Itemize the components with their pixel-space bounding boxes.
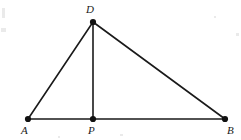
vertex-label-d: D xyxy=(86,4,94,15)
vertex-dot-d xyxy=(90,19,96,25)
scan-artifact xyxy=(236,33,239,36)
vertex-dot-p xyxy=(90,116,96,122)
vertex-label-p: P xyxy=(88,125,95,136)
scan-artifact xyxy=(120,134,123,136)
vertex-dot-b xyxy=(222,116,228,122)
segment-db xyxy=(93,22,225,119)
vertex-label-b: B xyxy=(227,125,234,136)
scan-artifact xyxy=(58,136,60,138)
geometry-canvas xyxy=(0,0,241,140)
vertex-dot-a xyxy=(25,116,31,122)
vertex-label-a: A xyxy=(21,125,28,136)
geometry-figure: D A P B xyxy=(0,0,241,140)
segment-ad xyxy=(28,22,93,119)
scan-artifact xyxy=(214,16,216,18)
scan-artifact xyxy=(2,8,5,18)
scan-artifact xyxy=(1,28,6,32)
